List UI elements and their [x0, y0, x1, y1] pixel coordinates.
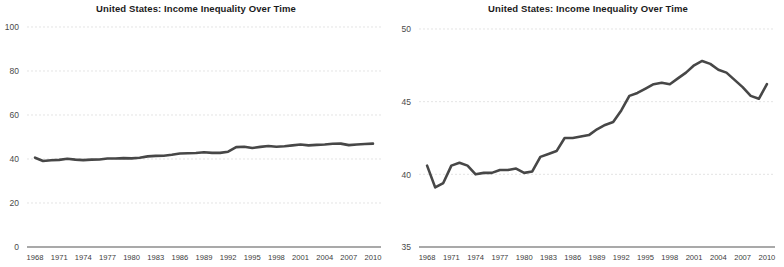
right-chart-x-tick-label: 2001 [686, 253, 703, 262]
right-chart-plot: 3540455019681971197419771980198319861989… [392, 0, 784, 267]
left-chart-y-tick-label: 60 [10, 110, 20, 120]
left-chart-x-tick-label: 1971 [51, 253, 68, 262]
left-chart-panel: United States: Income Inequality Over Ti… [0, 0, 392, 267]
left-chart-x-tick-label: 1986 [171, 253, 188, 262]
right-chart-x-tick-label: 1992 [613, 253, 630, 262]
left-chart-y-tick-label: 40 [10, 154, 20, 164]
left-chart-x-tick-label: 2001 [292, 253, 309, 262]
left-chart-x-tick-label: 1989 [196, 253, 213, 262]
right-chart-y-tick-label: 50 [402, 24, 412, 34]
left-chart-x-tick-label: 1983 [147, 253, 164, 262]
right-chart-x-tick-label: 1977 [491, 253, 508, 262]
dual-chart-figure: United States: Income Inequality Over Ti… [0, 0, 784, 267]
right-chart-x-tick-label: 1971 [443, 253, 460, 262]
left-chart-x-tick-label: 1995 [244, 253, 261, 262]
left-chart-x-tick-label: 2004 [316, 253, 333, 262]
right-chart-x-tick-label: 1980 [516, 253, 533, 262]
left-chart-x-tick-label: 1974 [75, 253, 92, 262]
left-chart-y-tick-label: 80 [10, 66, 20, 76]
left-chart-x-tick-label: 1992 [220, 253, 237, 262]
right-chart-x-tick-label: 1983 [540, 253, 557, 262]
left-chart-x-tick-label: 2010 [365, 253, 382, 262]
left-chart-x-tick-label: 1968 [27, 253, 44, 262]
right-chart-panel: United States: Income Inequality Over Ti… [392, 0, 784, 267]
left-chart-y-tick-label: 0 [14, 242, 19, 252]
right-chart-x-tick-label: 1989 [589, 253, 606, 262]
left-chart-x-tick-label: 2007 [340, 253, 357, 262]
left-chart-x-tick-label: 1980 [123, 253, 140, 262]
right-chart-y-tick-label: 40 [402, 170, 412, 180]
left-chart-y-tick-label: 100 [5, 22, 19, 32]
right-chart-y-tick-label: 35 [402, 242, 412, 252]
right-chart-x-tick-label: 1974 [467, 253, 484, 262]
right-chart-x-tick-label: 1968 [419, 253, 436, 262]
right-chart-x-tick-label: 2004 [710, 253, 727, 262]
right-chart-x-tick-label: 1995 [637, 253, 654, 262]
left-chart-plot: 0204060801001968197119741977198019831986… [0, 0, 392, 267]
left-chart-y-tick-label: 20 [10, 198, 20, 208]
left-chart-x-tick-label: 1977 [99, 253, 116, 262]
right-chart-data-line [427, 61, 767, 187]
right-chart-x-tick-label: 2007 [734, 253, 751, 262]
left-chart-data-line [35, 144, 373, 161]
right-chart-x-tick-label: 2010 [758, 253, 775, 262]
left-chart-x-tick-label: 1998 [268, 253, 285, 262]
right-chart-x-tick-label: 1986 [564, 253, 581, 262]
right-chart-x-tick-label: 1998 [661, 253, 678, 262]
right-chart-y-tick-label: 45 [402, 97, 412, 107]
